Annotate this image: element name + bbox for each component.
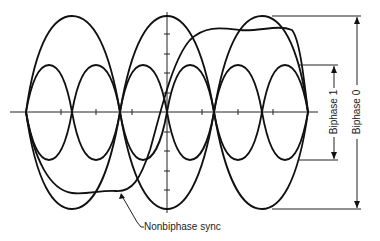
eye-pattern-diagram: Nonbiphase sync Biphase 1 Biphase 0 [0, 0, 380, 241]
nonbiphase-sync-label: Nonbiphase sync [144, 221, 221, 232]
biphase-1-label: Biphase 1 [328, 89, 339, 134]
nonbiphase-sync-leader: Nonbiphase sync [119, 193, 221, 232]
axes [10, 12, 318, 213]
biphase-0-label: Biphase 0 [351, 89, 362, 134]
